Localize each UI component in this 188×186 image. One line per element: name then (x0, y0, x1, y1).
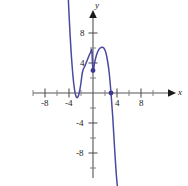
graph-figure: -8 -4 4 8 8 4 -4 -8 x y (0, 0, 188, 186)
y-axis (89, 10, 98, 178)
x-tick-label-neg4: -4 (65, 99, 73, 108)
y-tick-label-neg4: -4 (76, 119, 84, 128)
marked-point-y-intercept (91, 68, 96, 73)
x-axis-arrowhead (168, 89, 176, 97)
x-tick-label-8: 8 (139, 99, 144, 108)
y-tick-label-4: 4 (80, 59, 85, 68)
x-tick-label-4: 4 (115, 99, 120, 108)
y-axis-label: y (95, 1, 99, 10)
x-tick-label-neg8: -8 (41, 99, 49, 108)
marked-point-x-intercept (109, 91, 114, 96)
y-axis-arrowhead (89, 10, 97, 18)
x-axis-label: x (178, 88, 182, 97)
x-axis (33, 89, 176, 98)
y-tick-label-8: 8 (80, 29, 85, 38)
y-tick-label-neg8: -8 (76, 149, 84, 158)
coordinate-plot (0, 0, 188, 186)
